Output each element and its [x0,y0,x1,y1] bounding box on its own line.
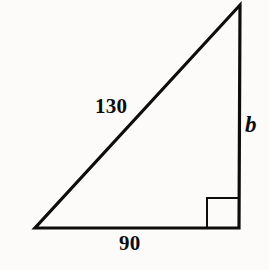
hypotenuse-length-label: 130 [95,96,127,117]
vertical-leg-variable-label: b [245,113,257,136]
right-triangle-shape [35,5,240,228]
right-angle-square [207,198,238,228]
triangle-figure-svg [0,0,269,270]
base-length-label: 90 [119,233,140,254]
figure-canvas: 130 90 b [0,0,269,270]
